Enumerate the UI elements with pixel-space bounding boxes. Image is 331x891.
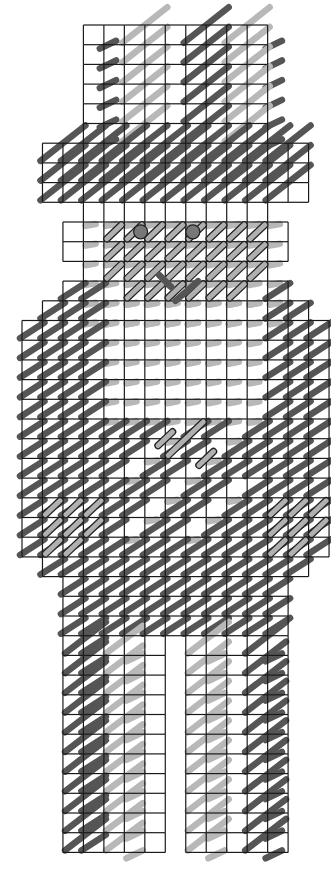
light-stitch [147, 401, 157, 403]
light-stitch [147, 362, 157, 364]
light-stitch [147, 224, 157, 226]
light-stitch [208, 401, 218, 403]
light-stitch [249, 323, 259, 325]
light-stitch [208, 283, 218, 285]
light-stitch [249, 362, 259, 364]
light-stitch [229, 303, 239, 305]
light-stitch [270, 283, 280, 285]
light-stitch [188, 303, 198, 305]
stitch-chart-canvas [0, 0, 331, 891]
light-stitch [126, 263, 136, 265]
light-stitch [86, 263, 96, 265]
light-stitch [167, 263, 177, 265]
light-stitch [249, 263, 259, 265]
light-stitch [188, 342, 198, 344]
light-stitch [126, 283, 136, 285]
light-stitch [188, 382, 198, 384]
light-stitch [270, 263, 280, 265]
light-stitch [126, 850, 142, 858]
light-stitch [126, 303, 136, 305]
light-stitch [208, 323, 218, 325]
light-stitch [270, 244, 280, 246]
light-stitch [147, 460, 157, 462]
light-stitch [167, 441, 177, 443]
light-stitch [249, 224, 259, 226]
light-stitch [208, 342, 218, 344]
light-stitch [188, 421, 198, 423]
light-stitch [126, 224, 136, 226]
light-stitch [270, 323, 280, 325]
light-stitch [86, 224, 96, 226]
light-stitch [229, 342, 239, 344]
light-stitch [167, 244, 177, 246]
light-stitch [229, 283, 239, 285]
light-stitch [188, 480, 198, 482]
light-stitch [229, 362, 239, 364]
light-stitch [106, 244, 116, 246]
light-stitch [126, 362, 136, 364]
light-stitch [188, 263, 198, 265]
light-stitch [167, 224, 177, 226]
light-stitch [147, 263, 157, 265]
light-stitch [188, 244, 198, 246]
light-stitch [106, 263, 116, 265]
light-stitch [229, 500, 239, 502]
light-stitch [229, 224, 239, 226]
light-stitch [229, 244, 239, 246]
light-stitch [249, 421, 259, 423]
light-stitch [167, 401, 177, 403]
light-stitch [229, 441, 239, 443]
light-stitch [126, 342, 136, 344]
light-stitch [229, 382, 239, 384]
light-stitch [147, 283, 157, 285]
eye-knot [134, 225, 148, 239]
light-stitch [208, 382, 218, 384]
light-stitch [167, 362, 177, 364]
light-stitch [147, 323, 157, 325]
light-stitch [126, 323, 136, 325]
light-stitch [249, 303, 259, 305]
light-stitch [106, 224, 116, 226]
light-stitch [167, 323, 177, 325]
light-stitch [270, 303, 280, 305]
light-stitch [229, 323, 239, 325]
light-stitch [126, 244, 136, 246]
light-stitch [208, 244, 218, 246]
light-stitch [147, 244, 157, 246]
light-stitch [270, 224, 280, 226]
light-stitch [249, 401, 259, 403]
light-stitch [208, 362, 218, 364]
light-stitch [249, 342, 259, 344]
light-stitch [126, 382, 136, 384]
light-stitch [147, 342, 157, 344]
light-stitch [167, 382, 177, 384]
light-stitch [147, 382, 157, 384]
light-stitch [188, 323, 198, 325]
light-stitch [208, 263, 218, 265]
light-stitch [188, 401, 198, 403]
light-stitch [229, 263, 239, 265]
stitch-chart: Plastic canvas / needlepoint stitch char… [0, 0, 331, 891]
light-stitch [208, 224, 218, 226]
light-stitch [188, 362, 198, 364]
light-stitch [229, 401, 239, 403]
light-stitch [208, 460, 218, 462]
light-stitch [249, 283, 259, 285]
light-stitch [208, 520, 218, 522]
light-stitch [249, 382, 259, 384]
light-stitch [167, 342, 177, 344]
light-stitch [147, 520, 157, 522]
light-stitch [167, 500, 177, 502]
light-stitch [126, 401, 136, 403]
light-stitch [208, 850, 224, 858]
light-stitch [86, 244, 96, 246]
light-stitch [208, 303, 218, 305]
light-stitch [249, 244, 259, 246]
eye-knot [186, 225, 200, 239]
light-stitch [147, 303, 157, 305]
